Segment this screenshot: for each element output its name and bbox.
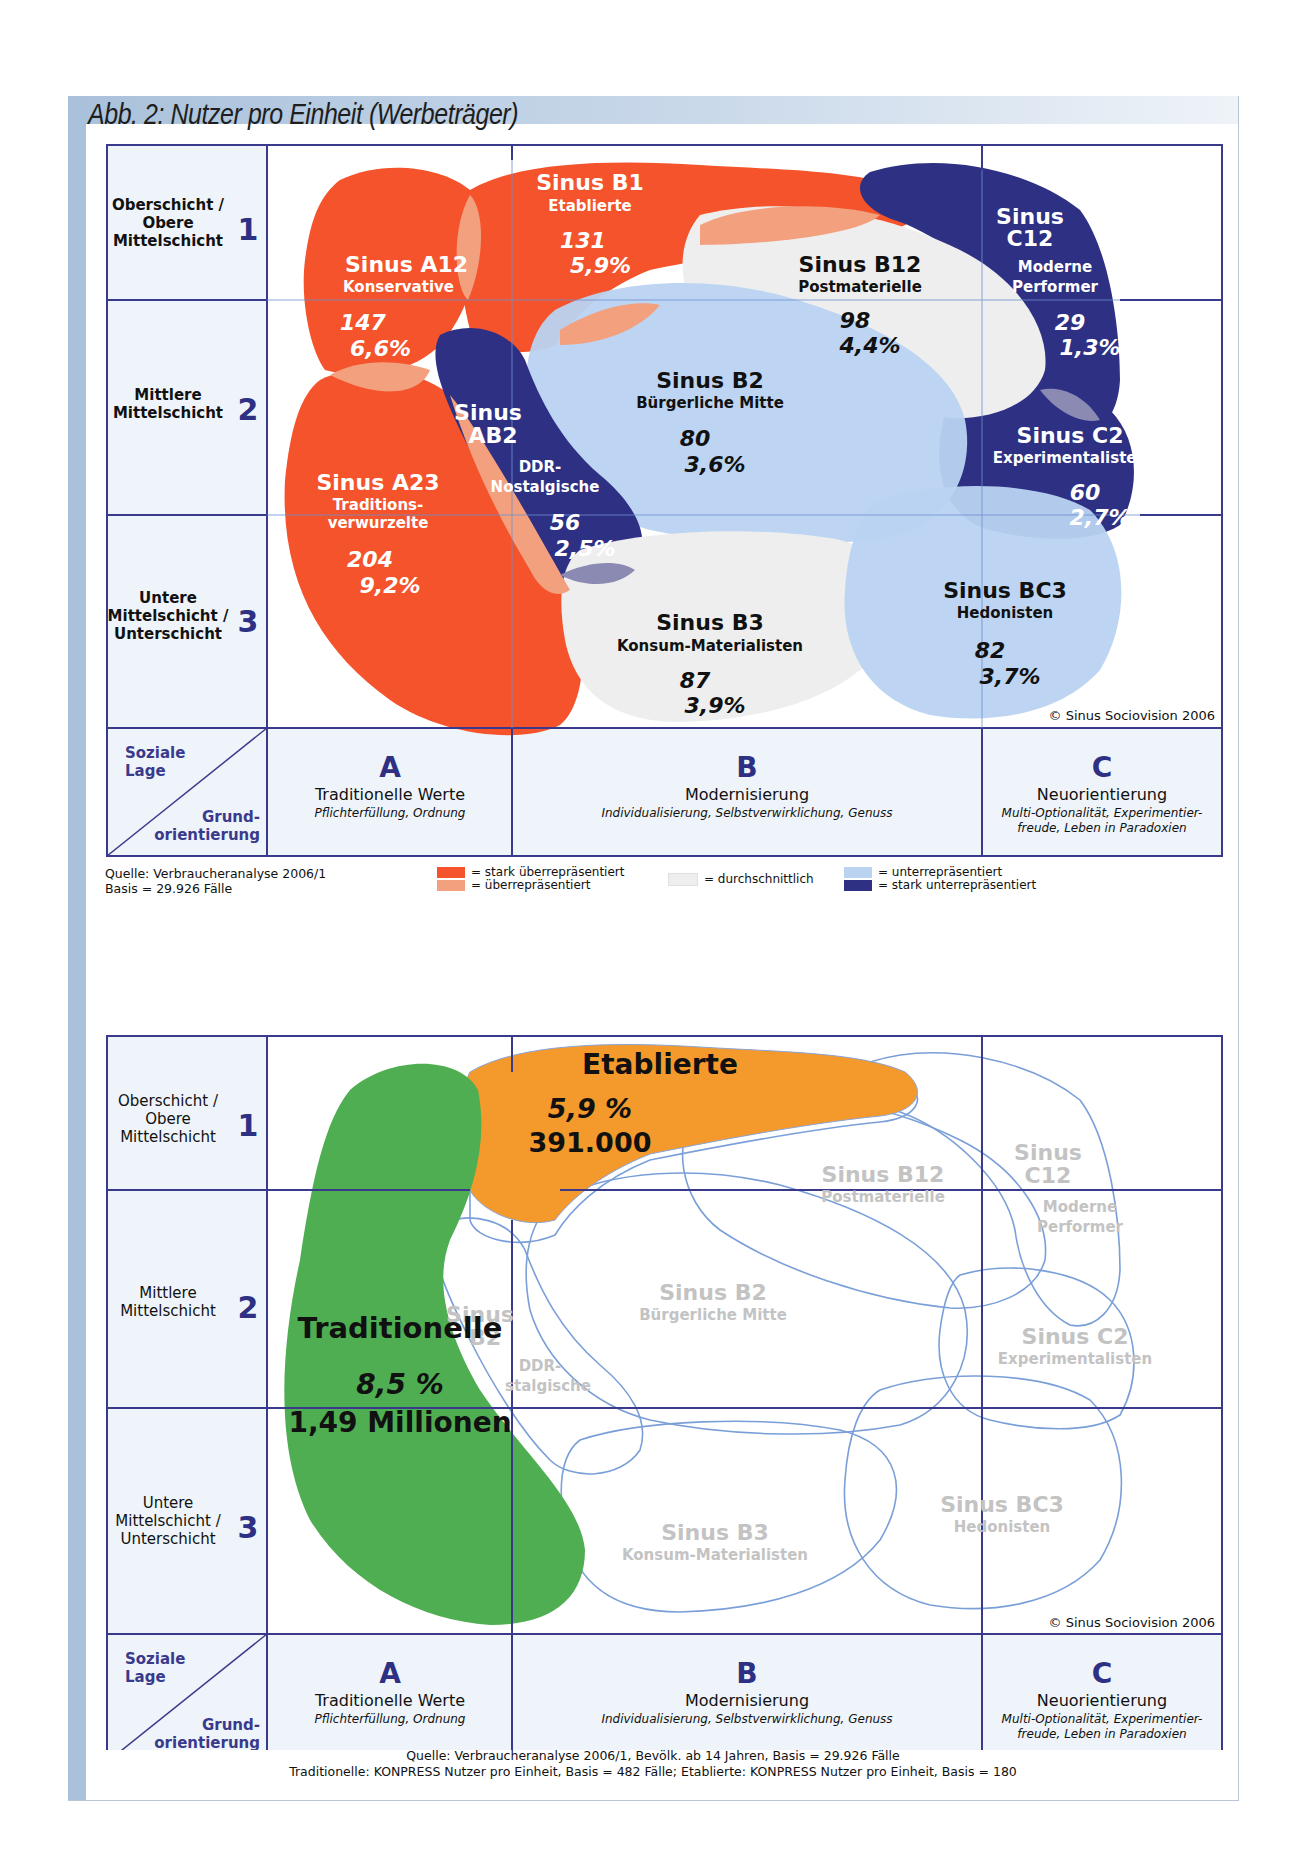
svg-text:Hedonisten: Hedonisten — [957, 604, 1054, 622]
legend-swatch — [437, 880, 465, 891]
svg-text:2,7%: 2,7% — [1069, 505, 1130, 530]
svg-text:Nostalgische: Nostalgische — [491, 478, 600, 496]
svg-text:131: 131 — [560, 228, 606, 253]
chart2-source: Quelle: Verbraucheranalyse 2006/1, Bevöl… — [0, 1748, 1306, 1780]
svg-text:Untere: Untere — [139, 589, 197, 607]
ghost-label-B12: Sinus B12 Postmaterielle — [821, 1162, 945, 1206]
svg-text:Sinus B2: Sinus B2 — [656, 368, 764, 393]
svg-text:Neuorientierung: Neuorientierung — [1037, 1691, 1167, 1710]
svg-text:Modernisierung: Modernisierung — [685, 785, 809, 804]
svg-text:Unterschicht: Unterschicht — [120, 1530, 215, 1548]
svg-text:1,3%: 1,3% — [1059, 335, 1120, 360]
chart1-legend-under: = unterrepräsentiert = stark unterrepräs… — [844, 866, 1036, 892]
svg-text:orientierung: orientierung — [154, 826, 260, 844]
ghost-label-B3: Sinus B3 Konsum-Materialisten — [622, 1520, 808, 1564]
svg-text:Lage: Lage — [125, 762, 166, 780]
svg-text:Sinus BC3: Sinus BC3 — [943, 578, 1067, 603]
legend-swatch — [668, 873, 698, 886]
svg-text:Postmaterielle: Postmaterielle — [798, 278, 922, 296]
svg-text:stalgische: stalgische — [505, 1377, 591, 1395]
legend-item-durchschnitt: = durchschnittlich — [668, 873, 814, 886]
svg-text:Mittlere: Mittlere — [139, 1284, 196, 1302]
svg-text:4,4%: 4,4% — [838, 333, 900, 358]
svg-text:2,5%: 2,5% — [554, 536, 615, 561]
svg-text:3,7%: 3,7% — [979, 664, 1040, 689]
svg-text:A: A — [379, 751, 401, 784]
svg-text:3,9%: 3,9% — [684, 693, 745, 718]
svg-text:Pflichterfüllung, Ordnung: Pflichterfüllung, Ordnung — [315, 806, 466, 820]
svg-text:Experimentalisten: Experimentalisten — [993, 449, 1147, 467]
chart2-copyright: © Sinus Sociovision 2006 — [1049, 1615, 1215, 1630]
svg-text:Sinus BC3: Sinus BC3 — [940, 1492, 1064, 1517]
svg-text:6,6%: 6,6% — [350, 336, 411, 361]
chart2-row-number-2: 2 — [238, 1290, 259, 1325]
svg-text:B: B — [736, 1657, 757, 1690]
svg-text:Mittelschicht /: Mittelschicht / — [108, 607, 229, 625]
svg-text:Konsum-Materialisten: Konsum-Materialisten — [617, 637, 803, 655]
svg-text:Mittelschicht /: Mittelschicht / — [115, 1512, 221, 1530]
svg-text:DDR-: DDR- — [519, 458, 562, 476]
svg-text:Modernisierung: Modernisierung — [685, 1691, 809, 1710]
svg-text:1,49 Millionen: 1,49 Millionen — [288, 1406, 511, 1439]
row-number-2: 2 — [238, 392, 259, 427]
svg-text:Sinus B3: Sinus B3 — [656, 610, 764, 635]
svg-text:Grund-: Grund- — [202, 1716, 260, 1734]
svg-text:C: C — [1092, 1657, 1113, 1690]
svg-text:Sinus C2: Sinus C2 — [1017, 423, 1124, 448]
svg-text:Multi-Optionalität, Experiment: Multi-Optionalität, Experimentier- — [1002, 1712, 1203, 1726]
svg-text:Sinus B3: Sinus B3 — [661, 1520, 769, 1545]
ghost-label-C12: Sinus C12 Moderne Performer — [1014, 1140, 1124, 1236]
svg-text:DDR-: DDR- — [519, 1357, 562, 1375]
svg-text:Moderne: Moderne — [1018, 258, 1092, 276]
svg-text:Experimentalisten: Experimentalisten — [998, 1350, 1152, 1368]
svg-text:9,2%: 9,2% — [359, 573, 420, 598]
svg-text:204: 204 — [347, 547, 393, 572]
svg-text:Etablierte: Etablierte — [582, 1048, 738, 1081]
svg-text:Bürgerliche Mitte: Bürgerliche Mitte — [639, 1306, 787, 1324]
svg-text:8,5 %: 8,5 % — [356, 1368, 443, 1401]
svg-text:AB2: AB2 — [468, 423, 517, 448]
svg-text:Konsum-Materialisten: Konsum-Materialisten — [622, 1546, 808, 1564]
svg-text:Soziale: Soziale — [125, 1650, 185, 1668]
svg-text:Multi-Optionalität, Experiment: Multi-Optionalität, Experimentier- — [1002, 806, 1203, 820]
chart2-milieu-map: Oberschicht / Obere Mittelschicht 1 Mitt… — [0, 1030, 1306, 1750]
svg-text:147: 147 — [340, 310, 387, 335]
svg-text:Bürgerliche Mitte: Bürgerliche Mitte — [636, 394, 784, 412]
ghost-label-BC3: Sinus BC3 Hedonisten — [940, 1492, 1064, 1536]
svg-text:Hedonisten: Hedonisten — [954, 1518, 1051, 1536]
svg-text:80: 80 — [680, 426, 711, 451]
svg-text:verwurzelte: verwurzelte — [328, 514, 429, 532]
svg-text:Traditionelle Werte: Traditionelle Werte — [314, 785, 465, 804]
svg-text:Mittelschicht: Mittelschicht — [120, 1302, 216, 1320]
svg-text:A: A — [379, 1657, 401, 1690]
svg-text:Individualisierung, Selbstverw: Individualisierung, Selbstverwirklichung… — [601, 806, 892, 820]
svg-text:Pflichterfüllung, Ordnung: Pflichterfüllung, Ordnung — [315, 1712, 466, 1726]
svg-text:freude, Leben in Paradoxien: freude, Leben in Paradoxien — [1017, 821, 1186, 835]
svg-text:Sinus: Sinus — [454, 400, 522, 425]
svg-text:29: 29 — [1055, 310, 1086, 335]
svg-text:56: 56 — [550, 510, 581, 535]
legend-swatch — [437, 867, 465, 878]
svg-text:Konservative: Konservative — [343, 278, 454, 296]
row-number-1: 1 — [238, 212, 259, 247]
svg-text:98: 98 — [840, 308, 871, 333]
svg-text:Sinus B1: Sinus B1 — [536, 170, 644, 195]
svg-text:B: B — [736, 751, 757, 784]
svg-text:87: 87 — [680, 668, 711, 693]
svg-text:Sinus C2: Sinus C2 — [1022, 1324, 1129, 1349]
svg-text:Soziale: Soziale — [125, 744, 185, 762]
svg-text:Performer: Performer — [1037, 1218, 1124, 1236]
svg-text:Performer: Performer — [1012, 278, 1099, 296]
svg-text:C12: C12 — [1007, 226, 1054, 251]
svg-text:C12: C12 — [1025, 1163, 1072, 1188]
svg-text:Mittelschicht: Mittelschicht — [120, 1128, 216, 1146]
chart1-legend-avg: = durchschnittlich — [668, 873, 814, 886]
svg-text:5,9%: 5,9% — [570, 253, 631, 278]
svg-text:Moderne: Moderne — [1043, 1198, 1117, 1216]
ghost-label-B2: Sinus B2 Bürgerliche Mitte — [639, 1280, 787, 1324]
svg-text:Unterschicht: Unterschicht — [114, 625, 222, 643]
svg-text:82: 82 — [975, 638, 1006, 663]
row-number-3: 3 — [238, 604, 259, 639]
svg-text:Traditionelle: Traditionelle — [298, 1311, 503, 1345]
chart1-milieu-map: Oberschicht / Obere Mittelschicht 1 Mitt… — [0, 0, 1306, 900]
